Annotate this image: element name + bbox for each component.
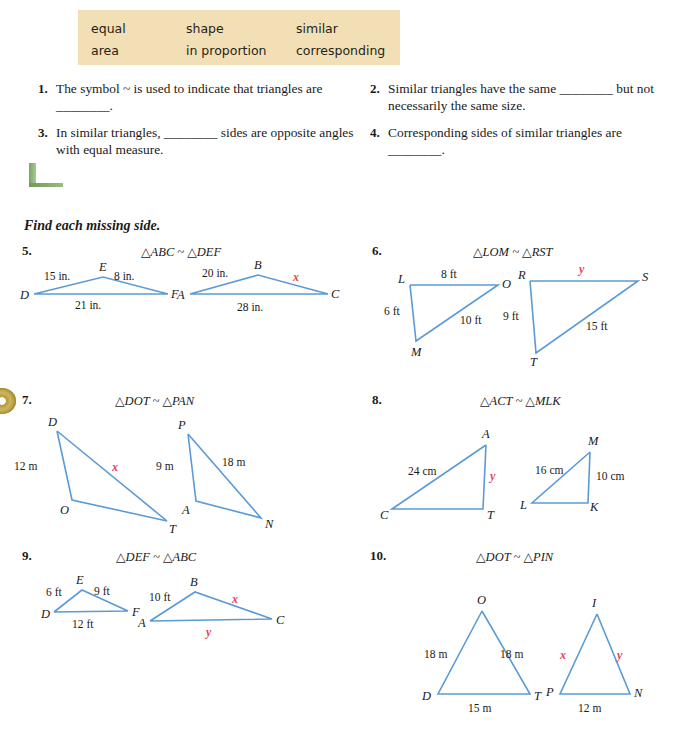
problem-7-number: 7. (22, 392, 32, 408)
word-bank: equal area shape in proportion similar c… (78, 10, 400, 65)
side-label-y8: y (488, 469, 496, 483)
side-label-y10: y (615, 648, 623, 662)
triangle-rst-outline (530, 281, 638, 353)
vertex-label-k: K (589, 500, 599, 514)
problem-10-figure: O D T 18 m 18 m 15 m I P N x y 12 m (380, 566, 670, 701)
page-top-cut-text (0, 0, 676, 6)
side-label-9ft: 9 ft (94, 585, 110, 597)
question-4-text: Corresponding sides of similar triangles… (388, 124, 672, 158)
vertex-label-c8: C (380, 508, 389, 522)
triangle-dot-outline (57, 431, 167, 521)
question-1-number: 1. (38, 81, 48, 97)
word-bank-term-similar: similar (296, 21, 338, 36)
side-label-y: y (577, 262, 585, 276)
vertex-label-m: M (410, 345, 422, 359)
problem-9-statement: △DEF ~ △ABC (116, 549, 196, 565)
side-label-24cm: 24 cm (408, 465, 436, 477)
vertex-label-d7: D (47, 415, 57, 429)
vertex-label-t: T (530, 355, 538, 369)
problem-5-number: 5. (22, 243, 32, 259)
side-label-x7: x (111, 460, 118, 474)
problem-6-figure: L O M 8 ft 6 ft 10 ft R S T y 9 ft 15 ft (380, 262, 670, 362)
problem-9-figure: D E F 6 ft 9 ft 12 ft A B C 10 ft x y (10, 568, 330, 653)
triangle-act-outline (392, 445, 486, 509)
side-label-20in: 20 in. (202, 267, 228, 279)
triangle-def9-outline (54, 590, 128, 612)
vertex-label-d9: D (40, 607, 50, 621)
question-3-text: In similar triangles, ________ sides are… (56, 124, 354, 158)
side-label-x9: x (231, 592, 238, 606)
side-label-6ft: 6 ft (46, 586, 62, 598)
word-bank-term-equal: equal (91, 21, 126, 36)
problem-8-number: 8. (372, 392, 382, 408)
vertex-label-c9: C (276, 613, 285, 627)
vertex-label-o7: O (60, 503, 69, 517)
vertex-label-s: S (642, 270, 649, 284)
side-label-12m: 12 m (14, 460, 37, 472)
side-label-18m: 18 m (222, 456, 245, 468)
word-bank-term-corresponding: corresponding (296, 43, 385, 58)
question-4-number: 4. (370, 125, 380, 141)
side-label-10ft: 10 ft (460, 314, 482, 326)
vertex-label-d10: D (421, 689, 431, 703)
vertex-label-n: N (264, 517, 274, 531)
side-label-15in: 15 in. (44, 270, 70, 282)
problem-9-number: 9. (22, 548, 32, 564)
vertex-label-o: O (502, 277, 511, 291)
side-label-12m: 12 m (578, 702, 601, 714)
side-label-28in: 28 in. (237, 301, 263, 313)
side-label-x10: x (559, 648, 566, 662)
problem-7-statement: △DOT ~ △PAN (115, 393, 194, 409)
side-label-16cm: 16 cm (535, 464, 563, 476)
problem-6-number: 6. (372, 243, 382, 259)
vertex-label-l8: L (519, 498, 527, 512)
problem-10-statement: △DOT ~ △PIN (476, 549, 553, 565)
problem-8-statement: △ACT ~ △MLK (480, 393, 561, 409)
vertex-label-o10: O (477, 593, 486, 607)
vertex-label-d: D (19, 288, 29, 302)
question-2-number: 2. (370, 81, 380, 97)
side-label-15ft: 15 ft (586, 320, 608, 332)
side-label-6ft: 6 ft (384, 305, 400, 317)
question-2-text: Similar triangles have the same ________… (388, 80, 672, 114)
vertex-label-n10: N (633, 686, 643, 700)
vertex-label-i10: I (591, 596, 597, 610)
vertex-label-b9: B (190, 575, 198, 589)
triangle-mlk-outline (532, 452, 590, 503)
side-label-21in: 21 in. (75, 299, 101, 311)
problem-8-figure: A C T 24 cm y M L K 16 cm 10 cm (380, 412, 670, 522)
problem-7-figure: D O T 12 m x P A N 9 m 18 m (10, 408, 330, 523)
side-label-8in: 8 in. (114, 270, 135, 282)
vertex-label-b: B (254, 258, 262, 272)
vertex-label-p10: P (545, 685, 554, 699)
problem-10-number: 10. (370, 548, 386, 564)
vertex-label-e: E (98, 260, 107, 274)
side-label-10ft: 10 ft (149, 591, 171, 603)
vertex-label-l: L (397, 272, 405, 286)
vertex-label-a: A (176, 288, 185, 302)
side-label-8ft: 8 ft (441, 268, 457, 280)
side-label-12ft: 12 ft (72, 618, 94, 630)
vertex-label-p: P (177, 418, 186, 432)
triangle-lom-outline (410, 285, 498, 341)
vertex-label-a9: A (137, 616, 146, 630)
word-bank-term-area: area (91, 43, 119, 58)
question-1-text: The symbol ~ is used to indicate that tr… (56, 80, 354, 114)
vertex-label-r: R (517, 268, 526, 282)
problem-6-statement: △LOM ~ △RST (473, 244, 552, 260)
vertex-label-t8: T (487, 508, 495, 522)
vertex-label-m8: M (587, 434, 599, 448)
vertex-label-t10: T (534, 689, 542, 703)
word-bank-term-shape: shape (186, 21, 224, 36)
word-bank-term-in-proportion: in proportion (186, 43, 266, 58)
triangle-pan-outline (188, 434, 261, 518)
vertex-label-t7: T (169, 522, 177, 536)
section-heading: Find each missing side. (24, 218, 160, 234)
vertex-label-e9: E (75, 573, 84, 587)
side-label-x: x (292, 270, 299, 284)
vertex-label-c: C (331, 287, 340, 301)
side-label-18m-right: 18 m (500, 648, 523, 660)
question-3-number: 3. (38, 125, 48, 141)
green-corner-accent (29, 163, 63, 187)
green-accent-horizontal (29, 183, 63, 187)
